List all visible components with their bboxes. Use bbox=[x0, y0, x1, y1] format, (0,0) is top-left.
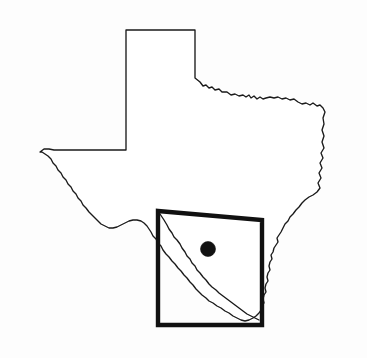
texas-map-svg bbox=[0, 0, 367, 358]
texas-state-boundary-path bbox=[40, 30, 325, 321]
study-site-point bbox=[201, 242, 216, 257]
map-figure bbox=[0, 0, 367, 358]
